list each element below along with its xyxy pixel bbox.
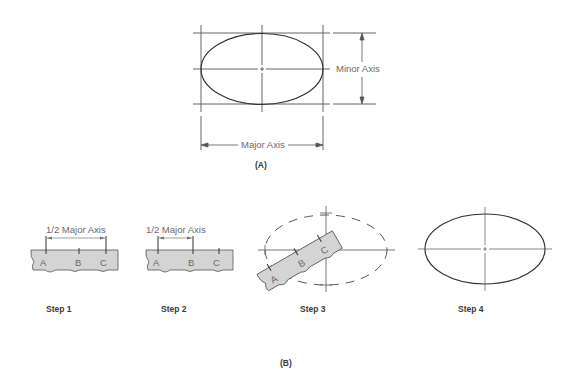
ellipse-construction-diagram: Minor Axis Major Axis (A) 1/2 Major Axis… (0, 0, 579, 386)
mark-b: B (188, 257, 194, 268)
caption-b: (B) (280, 358, 292, 368)
step-4: Step 4 (418, 207, 552, 314)
caption-a: (A) (255, 160, 267, 170)
minor-axis-label: Minor Axis (336, 63, 380, 74)
mark-b: B (75, 257, 81, 268)
step-1: 1/2 Major Axis A B C Step 1 (31, 224, 118, 314)
step-label: Step 2 (161, 304, 187, 314)
dimension-label: 1/2 Major Axis (146, 224, 206, 235)
step-label: Step 1 (46, 304, 72, 314)
mark-a: A (40, 257, 47, 268)
step-label: Step 3 (300, 304, 326, 314)
step-2: 1/2 Major Axis A B C Step 2 (146, 224, 233, 314)
step-3: A B C Step 3 (255, 206, 395, 314)
mark-a: A (153, 257, 160, 268)
mark-c: C (100, 257, 107, 268)
figure-a (193, 25, 376, 150)
mark-c: C (213, 257, 220, 268)
step-label: Step 4 (458, 304, 484, 314)
major-axis-label: Major Axis (241, 139, 285, 150)
dimension-label: 1/2 Major Axis (46, 224, 106, 235)
